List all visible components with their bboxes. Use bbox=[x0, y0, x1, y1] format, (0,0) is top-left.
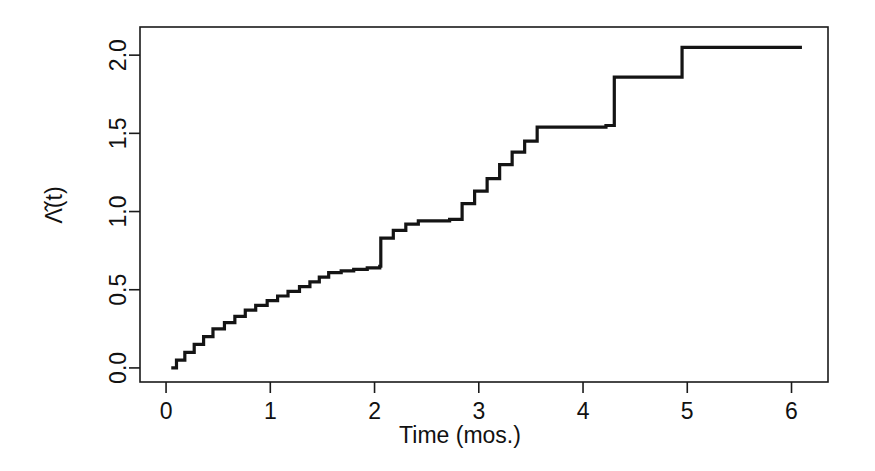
x-tick-label: 6 bbox=[785, 398, 798, 424]
figure-canvas: 0123456 0.00.51.01.52.0 Time (mos.) Λ̂(t… bbox=[0, 0, 875, 471]
y-tick-label: 1.5 bbox=[105, 117, 131, 149]
x-tick-label: 2 bbox=[368, 398, 381, 424]
cumulative-hazard-step-curve bbox=[171, 47, 802, 368]
y-axis-title: Λ̂(t) bbox=[41, 186, 67, 223]
plot-box-frame bbox=[140, 27, 828, 382]
y-tick-label: 0.5 bbox=[105, 274, 131, 306]
x-axis-title: Time (mos.) bbox=[399, 422, 521, 448]
y-tick-label: 2.0 bbox=[105, 39, 131, 71]
y-axis-tick-labels: 0.00.51.01.52.0 bbox=[105, 39, 131, 384]
chart-plot: 0123456 0.00.51.01.52.0 Time (mos.) Λ̂(t… bbox=[0, 0, 875, 471]
x-tick-label: 4 bbox=[577, 398, 590, 424]
y-tick-label: 0.0 bbox=[105, 352, 131, 384]
x-axis-tick-labels: 0123456 bbox=[160, 398, 798, 424]
x-tick-label: 5 bbox=[681, 398, 694, 424]
y-tick-label: 1.0 bbox=[105, 196, 131, 228]
x-tick-label: 0 bbox=[160, 398, 173, 424]
x-axis-ticks bbox=[166, 382, 791, 393]
x-tick-label: 1 bbox=[264, 398, 277, 424]
x-tick-label: 3 bbox=[472, 398, 485, 424]
